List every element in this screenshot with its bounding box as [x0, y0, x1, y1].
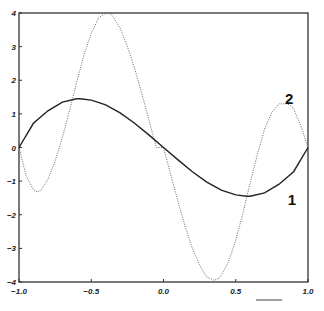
y-tick-label: −1: [7, 177, 17, 186]
curve-1-label: 1: [288, 191, 296, 208]
x-tick-label: 1.0: [302, 287, 314, 296]
curve-2-label: 2: [285, 90, 293, 107]
y-tick-label: 4: [11, 9, 17, 18]
y-tick-label: 2: [11, 76, 17, 85]
y-tick-label: 3: [12, 43, 17, 52]
y-tick-label: 0: [12, 144, 17, 153]
x-tick-label: 0.0: [158, 287, 170, 296]
curves: [19, 13, 308, 280]
y-axis-ticks: 43210−1−2−3−4: [7, 9, 22, 287]
y-tick-label: 1: [12, 110, 17, 119]
x-tick-label: −0.5: [83, 287, 99, 296]
curve-1-solid: [19, 99, 308, 197]
y-tick-label: −4: [7, 278, 17, 287]
y-tick-label: −2: [7, 211, 17, 220]
x-tick-label: 0.5: [230, 287, 242, 296]
chart-svg: 43210−1−2−3−4 −1.0−0.50.00.51.0 1 2: [0, 0, 324, 311]
y-tick-label: −3: [7, 244, 17, 253]
x-tick-label: −1.0: [11, 287, 27, 296]
